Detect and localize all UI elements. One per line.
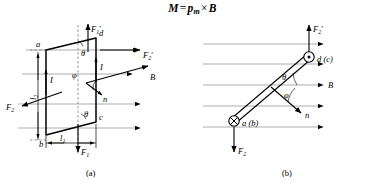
force-label-F2-prime: F2′ [142, 50, 153, 61]
node-label-d-c: d (c) [317, 54, 333, 64]
current-loop-abcd [46, 38, 96, 135]
angle-label-phi: φ [284, 90, 289, 100]
current-label-right: I [99, 62, 104, 72]
panel-b-diagram: d (c) a (b) F2′ F2 B n θ φ [195, 0, 385, 188]
force-label-F2: F2 [5, 102, 14, 113]
physics-figure: M=pm×B [0, 0, 385, 188]
angle-label-phi: φ [72, 70, 77, 80]
angle-arc-theta [293, 73, 297, 85]
field-lines-group-a [18, 50, 140, 128]
angle-label-theta-bottom: θ [84, 109, 88, 119]
normal-label-n: n [103, 94, 107, 104]
dimension-label-l1: l1 [60, 133, 65, 144]
conductor-out-of-page [304, 52, 314, 62]
conductor-into-page [229, 116, 239, 126]
dimension-l1 [46, 124, 96, 148]
field-label-B: B [150, 72, 155, 82]
dimension-label-l2: l2 [28, 95, 39, 100]
normal-label-n: n [305, 110, 309, 120]
force-label-F2: F2 [237, 146, 246, 157]
caption-panel-a: (a) [86, 168, 95, 178]
loop-edge-on-rod [232, 55, 310, 123]
current-label-left: I [49, 75, 54, 85]
normal-vector-n [86, 83, 102, 95]
angle-label-theta-top: θ [81, 48, 85, 58]
vertex-label-b: b [39, 139, 43, 149]
force-label-F2-prime: F2′ [312, 24, 323, 35]
node-label-a-b: a (b) [242, 118, 258, 128]
vertex-label-a: a [36, 39, 40, 49]
angle-label-theta: θ [282, 72, 286, 82]
angle-arc-phi [288, 88, 295, 102]
caption-panel-b: (b) [282, 168, 292, 178]
vertex-label-c: c [99, 112, 103, 122]
field-label-B: B [328, 80, 333, 90]
force-label-F1: F1 [80, 147, 89, 158]
force-label-F1-prime: F1′ [90, 24, 101, 35]
panel-a-diagram: a d c b F1′ F1 F2′ F2 B n I I θ θ [0, 0, 195, 188]
